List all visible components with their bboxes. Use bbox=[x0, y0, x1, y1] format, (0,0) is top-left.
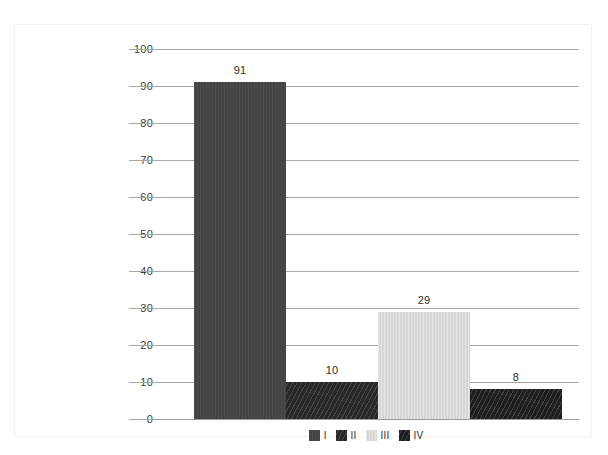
bar-value-label-IV: 8 bbox=[470, 371, 562, 383]
bar-value-label-III: 29 bbox=[378, 294, 470, 306]
gridline-stub-30 bbox=[129, 308, 153, 309]
gridline-stub-50 bbox=[129, 234, 153, 235]
bar-value-label-I: 91 bbox=[194, 64, 286, 76]
legend-item-II[interactable]: II bbox=[336, 430, 357, 441]
plot-area: 9110298 IIIIIIIV bbox=[153, 49, 579, 419]
gridline-stub-10 bbox=[129, 382, 153, 383]
legend-item-III[interactable]: III bbox=[366, 430, 390, 441]
legend-label-I: I bbox=[324, 431, 327, 441]
bar-I[interactable]: 91 bbox=[194, 82, 286, 419]
gridline-stub-0 bbox=[129, 419, 153, 420]
legend-swatch-I bbox=[309, 430, 320, 441]
chart-frame: 1009080706050403020100 9110298 IIIIIIIV bbox=[14, 24, 592, 437]
bar-IV[interactable]: 8 bbox=[470, 389, 562, 419]
legend-swatch-II bbox=[336, 430, 347, 441]
gridline-0 bbox=[153, 419, 579, 420]
gridline-stub-90 bbox=[129, 86, 153, 87]
gridline-stub-80 bbox=[129, 123, 153, 124]
gridline-stub-70 bbox=[129, 160, 153, 161]
bar-II[interactable]: 10 bbox=[286, 382, 378, 419]
legend-item-IV[interactable]: IV bbox=[399, 430, 424, 441]
chart-legend: IIIIIIIV bbox=[153, 430, 579, 441]
legend-label-IV: IV bbox=[414, 431, 424, 441]
legend-label-II: II bbox=[351, 431, 357, 441]
gridline-stub-40 bbox=[129, 271, 153, 272]
legend-swatch-III bbox=[366, 430, 377, 441]
gridline-stub-60 bbox=[129, 197, 153, 198]
gridline-stub-20 bbox=[129, 345, 153, 346]
legend-label-III: III bbox=[381, 431, 390, 441]
legend-item-I[interactable]: I bbox=[309, 430, 327, 441]
bar-value-label-II: 10 bbox=[286, 364, 378, 376]
bars: 9110298 bbox=[153, 49, 579, 419]
legend-swatch-IV bbox=[399, 430, 410, 441]
gridline-stub-100 bbox=[129, 49, 153, 50]
bar-III[interactable]: 29 bbox=[378, 312, 470, 419]
